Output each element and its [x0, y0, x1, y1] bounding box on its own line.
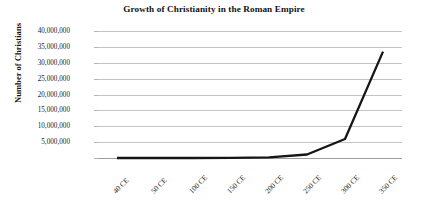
x-tick-label: 150 CE	[225, 173, 247, 195]
y-tick-label: 15,000,000	[0, 106, 70, 114]
x-tick-label: 40 CE	[111, 176, 131, 196]
y-tick-label: 5,000,000	[0, 138, 70, 146]
series-line-christians	[98, 31, 402, 158]
x-tick-label: 300 CE	[339, 173, 361, 195]
y-tick-label: 20,000,000	[0, 91, 70, 99]
x-tick-label: 100 CE	[187, 173, 209, 195]
y-tick-label: 10,000,000	[0, 122, 70, 130]
x-axis-ticks: 40 CE50 CE100 CE150 CE200 CE250 CE300 CE…	[98, 163, 402, 207]
chart-title: Growth of Christianity in the Roman Empi…	[0, 4, 428, 14]
y-tick-label: 30,000,000	[0, 59, 70, 67]
y-tick-label: 35,000,000	[0, 43, 70, 51]
x-tick-label: 350 CE	[377, 173, 399, 195]
plot-area: 40,000,00035,000,00030,000,00025,000,000…	[98, 31, 402, 158]
x-tick-label: 250 CE	[301, 173, 323, 195]
x-tick-label: 50 CE	[149, 176, 169, 196]
y-tick-mark	[94, 158, 98, 159]
y-tick-label: 25,000,000	[0, 75, 70, 83]
y-tick-label: 40,000,000	[0, 27, 70, 35]
x-tick-label: 200 CE	[263, 173, 285, 195]
chart-container: Growth of Christianity in the Roman Empi…	[0, 0, 428, 207]
